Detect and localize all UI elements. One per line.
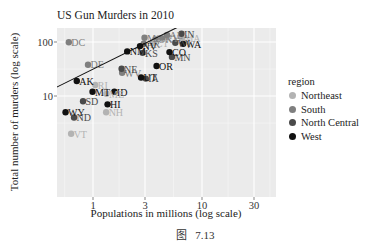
legend-dot-icon xyxy=(289,92,296,99)
svg-text:WY: WY xyxy=(68,107,85,118)
legend-item-south: South xyxy=(288,103,359,117)
legend-item-west: West xyxy=(288,130,359,144)
svg-text:VT: VT xyxy=(74,129,87,140)
figure-caption: 图 7.13 xyxy=(176,226,215,242)
y-axis-label: Total number of murders (log scale) xyxy=(8,33,20,191)
legend-title: region xyxy=(288,76,359,87)
svg-text:CO: CO xyxy=(172,47,186,58)
legend-label: North Central xyxy=(301,117,359,128)
svg-text:ME: ME xyxy=(109,89,124,100)
legend-dot-icon xyxy=(289,133,296,140)
svg-text:10: 10 xyxy=(43,91,54,102)
svg-text:100: 100 xyxy=(37,37,53,48)
svg-text:NM: NM xyxy=(130,46,146,57)
legend: region Northeast South North Central Wes… xyxy=(288,76,359,143)
svg-text:AK: AK xyxy=(79,76,94,87)
legend-label: Northeast xyxy=(301,90,342,101)
svg-text:NE: NE xyxy=(124,64,137,75)
svg-text:UT: UT xyxy=(144,72,157,83)
legend-item-northeast: Northeast xyxy=(288,89,359,103)
legend-item-north-central: North Central xyxy=(288,116,359,130)
legend-label: West xyxy=(301,131,322,142)
x-axis-label: Populations in millions (log scale) xyxy=(91,207,242,219)
svg-text:NH: NH xyxy=(109,107,123,118)
legend-dot-icon xyxy=(289,106,296,113)
svg-text:SD: SD xyxy=(86,96,99,107)
legend-dot-icon xyxy=(289,119,296,126)
legend-label: South xyxy=(301,104,326,115)
svg-text:30: 30 xyxy=(249,200,260,211)
svg-text:OR: OR xyxy=(159,61,173,72)
svg-text:DC: DC xyxy=(71,37,85,48)
